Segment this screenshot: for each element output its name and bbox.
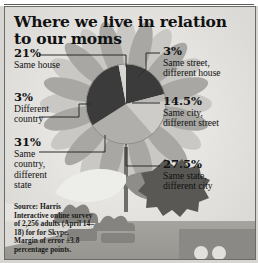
- label-same-state: 27.5% Same state, different city: [163, 158, 229, 192]
- label-different-country: 3% Different country: [14, 91, 68, 125]
- label-pct: 21%: [14, 47, 66, 59]
- label-text: Same street, different house: [163, 58, 229, 79]
- label-same-city: 14.5% Same city, different street: [163, 95, 229, 129]
- label-text: Same country, different state: [14, 149, 66, 191]
- label-pct: 14.5%: [163, 95, 229, 107]
- label-text: Same state, different city: [163, 171, 229, 192]
- page-title: Where we live in relation to our moms: [14, 13, 229, 47]
- infographic-root: Where we live in relation to our moms 21…: [0, 0, 258, 263]
- label-same-street: 3% Same street, different house: [163, 45, 229, 79]
- label-text: Different country: [14, 104, 68, 125]
- label-same-country: 31% Same country, different state: [14, 136, 66, 191]
- label-pct: 3%: [163, 45, 229, 57]
- source-note: Source: Harris Interactive online survey…: [14, 203, 94, 255]
- label-pct: 27.5%: [163, 158, 229, 170]
- infographic-panel: Where we live in relation to our moms 21…: [4, 6, 256, 260]
- pie-chart: [86, 64, 166, 144]
- label-pct: 31%: [14, 136, 66, 148]
- label-text: Same city, different street: [163, 108, 229, 129]
- label-pct: 3%: [14, 91, 68, 103]
- label-text: Same house: [14, 60, 66, 70]
- label-same-house: 21% Same house: [14, 47, 66, 70]
